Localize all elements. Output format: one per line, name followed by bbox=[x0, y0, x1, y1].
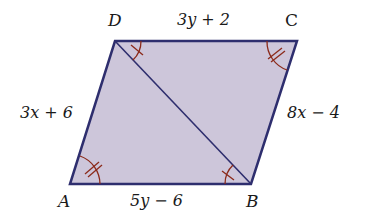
side-label-cb: 8x − 4 bbox=[287, 105, 340, 121]
side-label-ad: 3x + 6 bbox=[20, 105, 73, 121]
vertex-label-a: A bbox=[58, 193, 70, 210]
vertex-label-d: D bbox=[108, 12, 122, 29]
vertex-label-c: C bbox=[285, 12, 298, 29]
vertex-label-b: B bbox=[246, 193, 259, 210]
side-label-dc: 3y + 2 bbox=[177, 12, 230, 28]
side-label-ab: 5y − 6 bbox=[130, 193, 183, 209]
